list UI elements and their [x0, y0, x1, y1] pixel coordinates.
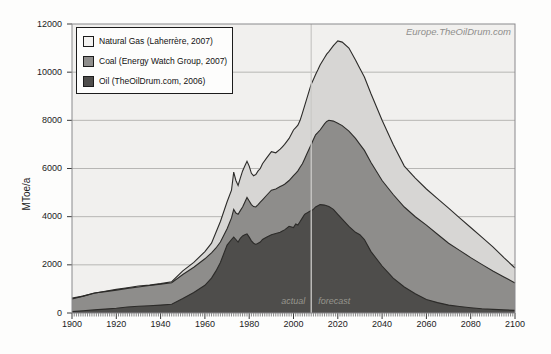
actual-phase-label: actual [281, 296, 305, 306]
legend-item-coal: Coal (Energy Watch Group, 2007) [77, 51, 232, 71]
y-tick-label: 4000 [18, 211, 62, 221]
forecast-phase-label: forecast [318, 296, 350, 306]
chart-legend: Natural Gas (Laherrère, 2007) Coal (Ener… [76, 27, 233, 94]
legend-item-oil: Oil (TheOilDrum.com, 2006) [77, 71, 232, 91]
watermark: Europe.TheOilDrum.com [406, 26, 511, 37]
x-tick-label: 2040 [366, 319, 398, 329]
x-tick-label: 1980 [233, 319, 265, 329]
x-tick-label: 2080 [455, 319, 487, 329]
x-tick-label: 1960 [189, 319, 221, 329]
y-tick-label: 6000 [18, 163, 62, 173]
y-tick-label: 10000 [18, 67, 62, 77]
legend-item-natural-gas: Natural Gas (Laherrère, 2007) [77, 31, 232, 51]
legend-label-natural-gas: Natural Gas (Laherrère, 2007) [99, 36, 213, 46]
x-tick-label: 2000 [278, 319, 310, 329]
fossil-fuel-production-chart: MToe/a 190019201940196019802000202020402… [0, 0, 551, 354]
x-tick-label: 1940 [145, 319, 177, 329]
x-tick-label: 1900 [56, 319, 88, 329]
y-tick-label: 2000 [18, 259, 62, 269]
natural-gas-swatch-icon [83, 36, 94, 47]
x-tick-label: 1920 [100, 319, 132, 329]
coal-swatch-icon [83, 56, 94, 67]
legend-label-coal: Coal (Energy Watch Group, 2007) [99, 56, 227, 66]
legend-label-oil: Oil (TheOilDrum.com, 2006) [99, 76, 205, 86]
y-tick-label: 12000 [18, 19, 62, 29]
y-tick-label: 0 [18, 308, 62, 318]
x-tick-label: 2020 [322, 319, 354, 329]
x-tick-label: 2060 [410, 319, 442, 329]
oil-swatch-icon [83, 76, 94, 87]
x-tick-label: 2100 [499, 319, 531, 329]
y-tick-label: 8000 [18, 115, 62, 125]
